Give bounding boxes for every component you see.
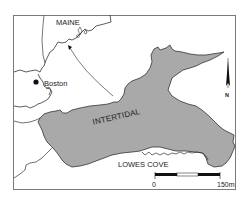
site-map: MAINE Boston INTERTIDAL LOWES COVE N 0 1… — [0, 0, 249, 202]
boston-marker-icon — [33, 79, 38, 84]
lowes-cove-label: LOWES COVE — [118, 161, 168, 169]
scale-end-label: 150m — [217, 181, 235, 188]
north-label: N — [225, 93, 229, 99]
boston-label: Boston — [44, 80, 67, 88]
scale-start-label: 0 — [152, 181, 156, 188]
maine-label: MAINE — [56, 19, 80, 27]
